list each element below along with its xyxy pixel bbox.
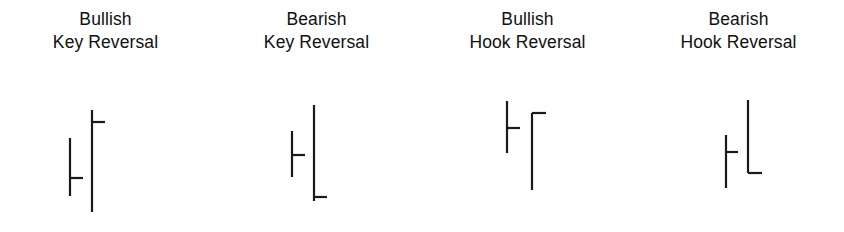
panel-bullish-hook-reversal: Bullish Hook Reversal — [422, 0, 633, 232]
pattern-drawing — [422, 0, 633, 232]
pattern-drawing — [633, 0, 844, 232]
pattern-drawing — [0, 0, 211, 232]
reversal-patterns-figure: Bullish Key Reversal Bearish Key Reversa… — [0, 0, 844, 232]
pattern-drawing — [211, 0, 422, 232]
panel-bearish-hook-reversal: Bearish Hook Reversal — [633, 0, 844, 232]
panel-bearish-key-reversal: Bearish Key Reversal — [211, 0, 422, 232]
panel-bullish-key-reversal: Bullish Key Reversal — [0, 0, 211, 232]
